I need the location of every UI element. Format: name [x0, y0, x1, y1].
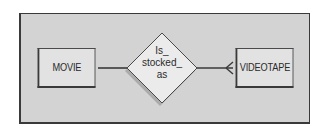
relationship-label-line-2: stocked_ [132, 57, 192, 69]
relationship-label: Is_ stocked_ as [132, 45, 192, 81]
relationship-label-line-3: as [132, 69, 192, 81]
entity-movie: MOVIE [38, 48, 96, 88]
relationship-label-line-1: Is_ [132, 45, 192, 57]
entity-videotape: VIDEOTAPE [236, 48, 294, 88]
entity-videotape-label: VIDEOTAPE [240, 62, 290, 73]
entity-movie-label: MOVIE [53, 62, 82, 73]
